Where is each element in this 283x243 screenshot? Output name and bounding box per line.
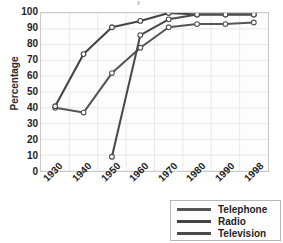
y-tick-label: 20 (14, 134, 38, 145)
legend-line-icon (177, 228, 211, 239)
y-tick-label: 0 (14, 166, 38, 177)
y-tick-label: 40 (14, 102, 38, 113)
y-tick-label: 70 (14, 54, 38, 65)
plot-area (40, 12, 269, 172)
y-tick-label: 90 (14, 22, 38, 33)
chart-legend: TelephoneRadioTelevision (170, 200, 281, 241)
legend-line-icon (177, 216, 211, 227)
y-tick-label: 30 (14, 118, 38, 129)
y-tick-label: 10 (14, 150, 38, 161)
legend-item-television[interactable]: Television (171, 228, 280, 239)
y-axis-tick-labels: 1009080706050403020100 (14, 7, 38, 177)
legend-item-label: Radio (218, 216, 246, 227)
legend-item-label: Television (218, 228, 266, 239)
chart-plot-svg (41, 13, 268, 171)
y-tick-label: 100 (14, 6, 38, 17)
legend-line-icon (177, 204, 211, 215)
y-tick-label: 60 (14, 70, 38, 81)
artifact-mark (137, 1, 140, 5)
y-tick-label: 80 (14, 38, 38, 49)
chart-screenshot: Percentage 1009080706050403020100 193019… (0, 0, 283, 243)
legend-item-telephone[interactable]: Telephone (171, 204, 280, 215)
legend-item-label: Telephone (218, 204, 267, 215)
y-tick-label: 50 (14, 86, 38, 97)
legend-item-radio[interactable]: Radio (171, 216, 280, 227)
